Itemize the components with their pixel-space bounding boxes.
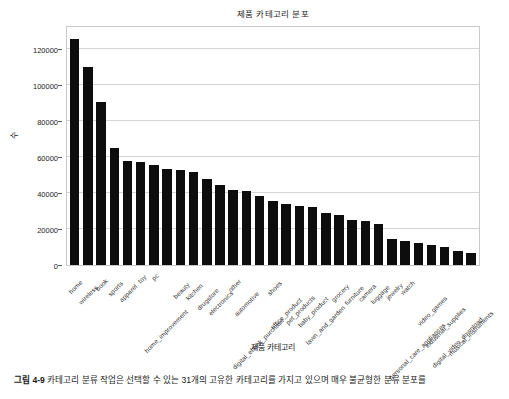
bar-slot <box>425 27 438 265</box>
bar[interactable] <box>268 201 278 265</box>
bar[interactable] <box>83 67 93 265</box>
x-tick-label: home <box>67 279 84 296</box>
bar-slot <box>253 27 266 265</box>
x-tick-label: pc <box>150 272 160 282</box>
bar[interactable] <box>295 206 305 265</box>
bar-slot <box>108 27 121 265</box>
bar-slot <box>398 27 411 265</box>
caption-text: 카테고리 분류 작업은 선택할 수 있는 31개의 고유한 카테고리를 가지고 … <box>47 375 426 385</box>
bar-slot <box>332 27 345 265</box>
bar[interactable] <box>215 185 225 265</box>
bar-slot <box>319 27 332 265</box>
y-tick-label: 100000 <box>2 81 58 90</box>
bar-slot <box>68 27 81 265</box>
bar-slot <box>174 27 187 265</box>
bar-slot <box>451 27 464 265</box>
bar-slot <box>81 27 94 265</box>
bar[interactable] <box>281 204 291 265</box>
y-tick-mark <box>58 265 62 266</box>
figure-container: 제품 카테고리 분포 수 020000400006000080000100000… <box>0 0 509 370</box>
bar[interactable] <box>96 102 106 265</box>
bar[interactable] <box>374 224 384 265</box>
y-tick-label: 80000 <box>2 117 58 126</box>
bar-slot <box>147 27 160 265</box>
bar-slot <box>412 27 425 265</box>
x-tick-label: book <box>94 277 109 292</box>
bar-slot <box>280 27 293 265</box>
bar-slot <box>200 27 213 265</box>
bar-slot <box>293 27 306 265</box>
y-tick-label: 120000 <box>2 45 58 54</box>
bar[interactable] <box>123 161 133 265</box>
bar[interactable] <box>228 190 238 265</box>
y-tick-mark <box>58 49 62 50</box>
bar-slot <box>161 27 174 265</box>
bar[interactable] <box>308 207 318 265</box>
bar[interactable] <box>255 196 265 265</box>
y-tick-label: 0 <box>2 262 58 271</box>
bar[interactable] <box>427 245 437 265</box>
x-tick-label: watch <box>399 279 416 296</box>
bar[interactable] <box>136 162 146 265</box>
bar[interactable] <box>440 247 450 265</box>
bar-slot <box>266 27 279 265</box>
chart-title: 제품 카테고리 분포 <box>66 7 480 19</box>
bar[interactable] <box>400 241 410 265</box>
bar-slot <box>438 27 451 265</box>
y-tick-label: 20000 <box>2 225 58 234</box>
bar-slot <box>213 27 226 265</box>
x-tick-label: other <box>227 278 243 294</box>
bar[interactable] <box>149 165 159 265</box>
bar[interactable] <box>321 213 331 265</box>
bar[interactable] <box>202 179 212 265</box>
bar[interactable] <box>110 148 120 265</box>
bar[interactable] <box>334 215 344 265</box>
bar[interactable] <box>387 239 397 265</box>
y-tick-mark <box>58 121 62 122</box>
bar-slot <box>121 27 134 265</box>
bar-slot <box>306 27 319 265</box>
bar-slot <box>134 27 147 265</box>
x-tick-label: shoes <box>266 279 283 296</box>
bar-series <box>67 27 479 265</box>
x-axis-label: 제품 카테고리 <box>66 341 480 352</box>
bar-slot <box>359 27 372 265</box>
y-tick-label: 60000 <box>2 153 58 162</box>
bar[interactable] <box>453 251 463 265</box>
plot-area <box>66 26 480 266</box>
y-tick-mark <box>58 193 62 194</box>
bar[interactable] <box>70 39 80 265</box>
bar[interactable] <box>361 221 371 265</box>
bar-slot <box>385 27 398 265</box>
y-tick-mark <box>58 157 62 158</box>
bar[interactable] <box>176 170 186 265</box>
x-tick-label: toy <box>136 273 147 284</box>
bar-slot <box>187 27 200 265</box>
bar-slot <box>94 27 107 265</box>
bar[interactable] <box>162 169 172 265</box>
bar[interactable] <box>189 172 199 265</box>
bar-slot <box>346 27 359 265</box>
y-axis-tick-labels: 020000400006000080000100000120000 <box>0 26 62 266</box>
caption-number: 그림 4-9 <box>14 375 45 385</box>
y-tick-mark <box>58 229 62 230</box>
figure-caption: 그림 4-9 카테고리 분류 작업은 선택할 수 있는 31개의 고유한 카테고… <box>14 374 502 387</box>
bar-slot <box>227 27 240 265</box>
bar[interactable] <box>414 243 424 265</box>
y-tick-label: 40000 <box>2 189 58 198</box>
bar[interactable] <box>242 191 252 265</box>
y-tick-mark <box>58 85 62 86</box>
bar-slot <box>240 27 253 265</box>
bar-slot <box>372 27 385 265</box>
bar-slot <box>465 27 478 265</box>
x-tick-label: automotive <box>233 290 261 318</box>
bar[interactable] <box>347 220 357 265</box>
bar[interactable] <box>466 253 476 265</box>
